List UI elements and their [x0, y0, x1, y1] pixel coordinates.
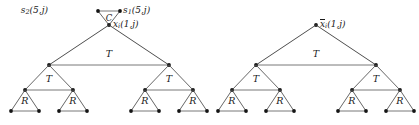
- left-leaf-5: [129, 109, 133, 113]
- label-left-r-3: R: [141, 96, 148, 106]
- label-right-t-level2-a: T: [253, 74, 259, 84]
- left-tree-group: [9, 9, 209, 113]
- label-left-t-level1: T: [106, 49, 112, 59]
- left-leaf-8: [205, 109, 209, 113]
- node-s1: [118, 9, 122, 13]
- label-connector-c: C: [106, 14, 113, 23]
- left-leaf-7: [177, 109, 181, 113]
- figure-root: s2(5,j) s1(5,j) C xi(1,j) xi(1,j) T T T …: [0, 0, 419, 125]
- label-left-root: xi(1,j): [113, 20, 139, 30]
- left-leaf-3: [57, 109, 61, 113]
- right-leaf-3: [264, 109, 268, 113]
- label-left-t-level2-a: T: [46, 74, 52, 84]
- right-triangle-t-level1: [256, 25, 376, 65]
- label-right-t-level1: T: [313, 49, 319, 59]
- left-triangle-t-level1: [49, 25, 169, 65]
- label-left-t-level2-b: T: [166, 74, 172, 84]
- right-leaf-1: [216, 109, 220, 113]
- left-leaf-6: [157, 109, 161, 113]
- label-right-r-2: R: [276, 96, 283, 106]
- left-leaf-4: [85, 109, 89, 113]
- label-right-r-4: R: [396, 96, 403, 106]
- label-right-root: xi(1,j): [320, 20, 346, 30]
- right-leaf-5: [336, 109, 340, 113]
- label-right-r-3: R: [348, 96, 355, 106]
- right-leaf-4: [292, 109, 296, 113]
- label-s2-node: s2(5,j): [21, 6, 48, 16]
- label-left-r-4: R: [189, 96, 196, 106]
- right-tree-group: [216, 23, 416, 113]
- left-leaf-1: [9, 109, 13, 113]
- label-right-r-1: R: [228, 96, 235, 106]
- label-left-r-1: R: [21, 96, 28, 106]
- right-leaf-2: [244, 109, 248, 113]
- label-s1-node: s1(5,j): [123, 6, 150, 16]
- left-leaf-2: [37, 109, 41, 113]
- right-leaf-7: [384, 109, 388, 113]
- tree-diagram-canvas: [0, 0, 419, 125]
- label-right-t-level2-b: T: [373, 74, 379, 84]
- right-leaf-8: [412, 109, 416, 113]
- label-left-r-2: R: [69, 96, 76, 106]
- node-s2: [96, 9, 100, 13]
- right-leaf-6: [364, 109, 368, 113]
